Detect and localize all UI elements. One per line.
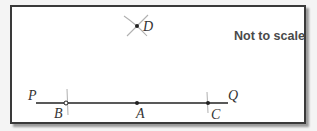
label-p: P <box>27 88 37 103</box>
not-to-scale-note: Not to scale <box>234 29 305 43</box>
label-q: Q <box>228 88 238 103</box>
label-a: A <box>135 106 145 121</box>
point-d <box>135 24 139 28</box>
label-c: C <box>211 107 221 122</box>
label-b: B <box>54 106 63 121</box>
point-c <box>206 101 210 105</box>
point-a <box>135 101 139 105</box>
construction-diagram: P Q B A C D <box>0 0 317 131</box>
label-d: D <box>142 19 153 34</box>
point-b <box>64 101 68 105</box>
